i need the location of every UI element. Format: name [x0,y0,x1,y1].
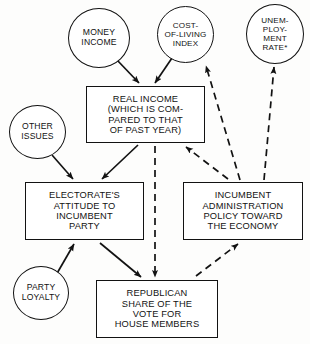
node-party-loyalty: PARTY LOYALTY [13,266,69,320]
edge-incumbent-policy-to-unemployment-rate [264,67,274,180]
edge-incumbent-policy-to-real-income [186,147,228,179]
node-republican-share-label: REPUBLICAN SHARE OF THE VOTE FOR HOUSE M… [115,288,200,330]
node-money-income: MONEY INCOME [68,8,130,68]
edge-other-issues-to-electorate-attitude [52,155,73,179]
node-incumbent-policy-label: INCUMBENT ADMINISTRATION POLICY TOWARD T… [203,190,284,232]
edge-electorate-attitude-to-republican-share [100,243,141,277]
node-cost-of-living-index: COST- OF-LIVING INDEX [157,6,214,63]
node-republican-share: REPUBLICAN SHARE OF THE VOTE FOR HOUSE M… [96,280,218,338]
edge-republican-share-to-incumbent-policy [196,244,238,276]
node-unemployment-rate: UNEM- PLOY- MENT RATE* [246,4,304,64]
node-incumbent-policy: INCUMBENT ADMINISTRATION POLICY TOWARD T… [183,182,303,240]
node-real-income: REAL INCOME (WHICH IS COM- PARED TO THAT… [86,86,205,143]
node-money-income-label: MONEY INCOME [81,28,116,47]
node-unemployment-rate-label: UNEM- PLOY- MENT RATE* [261,16,288,52]
node-electorate-attitude: ELECTORATE'S ATTITUDE TO INCUMBENT PARTY [25,182,144,240]
node-cost-of-living-index-label: COST- OF-LIVING INDEX [165,21,207,48]
node-electorate-attitude-label: ELECTORATE'S ATTITUDE TO INCUMBENT PARTY [49,190,120,232]
causal-diagram: MONEY INCOME COST- OF-LIVING INDEX UNEM-… [0,0,310,344]
edge-cost-of-living-to-real-income [155,58,172,83]
edge-incumbent-policy-to-cost-of-living [206,66,240,180]
node-real-income-label: REAL INCOME (WHICH IS COM- PARED TO THAT… [108,94,183,136]
edge-money-income-to-real-income [117,60,139,83]
node-other-issues-label: OTHER ISSUES [21,122,53,141]
edge-real-income-to-electorate-attitude [102,145,138,179]
node-other-issues: OTHER ISSUES [9,105,66,159]
node-party-loyalty-label: PARTY LOYALTY [22,283,60,302]
